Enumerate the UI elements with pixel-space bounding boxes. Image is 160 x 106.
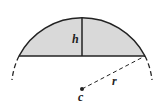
center-label: c bbox=[78, 90, 84, 104]
dashed-arc-left bbox=[12, 56, 19, 80]
height-label: h bbox=[72, 32, 79, 46]
segment-diagram: h r c bbox=[0, 0, 160, 106]
radius-label: r bbox=[112, 74, 117, 88]
dashed-arc-right bbox=[145, 56, 152, 80]
